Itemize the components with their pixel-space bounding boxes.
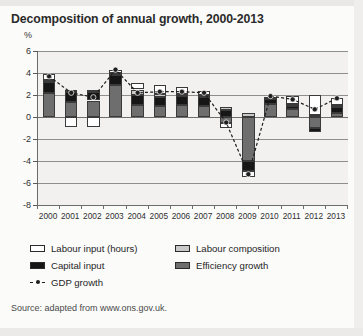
- x-tick-label-2007: 2007: [191, 211, 215, 221]
- y-tick-label-6: 6: [9, 47, 31, 56]
- gdp-marker-2007: [201, 90, 206, 95]
- legend-item-efficiency-growth: Efficiency growth: [175, 260, 268, 271]
- figure-container: Decomposition of annual growth, 2000-201…: [0, 0, 363, 336]
- legend-item-gdp-growth: GDP growth: [30, 277, 103, 288]
- chart-legend: Labour input (hours) Labour composition …: [30, 243, 340, 294]
- x-tick-label-2005: 2005: [147, 211, 171, 221]
- y-tick-label--2: -2: [9, 135, 31, 144]
- legend-swatch-labour-composition: [175, 245, 190, 252]
- gdp-marker-2008: [224, 120, 229, 125]
- gdp-marker-2012: [312, 107, 317, 112]
- y-tick-label-2: 2: [9, 91, 31, 100]
- gdp-marker-2013: [334, 96, 339, 101]
- x-tick-2008: [214, 205, 215, 209]
- gdp-marker-2004: [135, 90, 140, 95]
- x-tick-2004: [126, 205, 127, 209]
- x-tick-2012: [303, 205, 304, 209]
- x-tick-2011: [281, 205, 282, 209]
- legend-label-efficiency-growth: Efficiency growth: [196, 260, 268, 271]
- gdp-marker-2005: [157, 89, 162, 94]
- x-tick-label-2009: 2009: [235, 211, 259, 221]
- y-tick-label--8: -8: [9, 201, 31, 210]
- gdp-growth-line: [38, 51, 348, 205]
- gdp-marker-2006: [179, 89, 184, 94]
- gdp-marker-2003: [113, 67, 118, 72]
- gdp-marker-2000: [46, 74, 51, 79]
- legend-item-labour-input-hours: Labour input (hours): [30, 243, 137, 254]
- legend-label-labour-input-hours: Labour input (hours): [51, 243, 137, 254]
- x-tick-2010: [258, 205, 259, 209]
- x-tick-label-2006: 2006: [169, 211, 193, 221]
- legend-row-1: Labour input (hours) Labour composition: [30, 243, 340, 260]
- x-tick-label-2000: 2000: [36, 211, 60, 221]
- source-note: Source: adapted from www.ons.gov.uk.: [11, 303, 167, 313]
- legend-swatch-labour-input-hours: [30, 245, 45, 252]
- y-tick-label-4: 4: [9, 69, 31, 78]
- x-tick-2000: [37, 205, 38, 209]
- chart-title: Decomposition of annual growth, 2000-201…: [11, 12, 264, 26]
- x-tick-2001: [59, 205, 60, 209]
- gdp-marker-2011: [290, 97, 295, 102]
- x-tick-label-2011: 2011: [280, 211, 304, 221]
- x-tick-label-2013: 2013: [324, 211, 348, 221]
- y-tick-label--6: -6: [9, 179, 31, 188]
- legend-item-labour-composition: Labour composition: [175, 243, 280, 254]
- x-tick-label-2008: 2008: [213, 211, 237, 221]
- x-tick-2007: [192, 205, 193, 209]
- x-tick-end: [347, 205, 348, 209]
- gdp-marker-2002: [91, 95, 96, 100]
- y-tick-label--4: -4: [9, 157, 31, 166]
- x-tick-label-2012: 2012: [302, 211, 326, 221]
- legend-item-capital-input: Capital input: [30, 260, 104, 271]
- x-tick-label-2002: 2002: [80, 211, 104, 221]
- x-tick-label-2004: 2004: [125, 211, 149, 221]
- x-tick-2005: [148, 205, 149, 209]
- legend-label-gdp-growth: GDP growth: [51, 277, 103, 288]
- plot-canvas: [37, 51, 348, 205]
- legend-label-labour-composition: Labour composition: [196, 243, 280, 254]
- y-axis-unit-label: %: [24, 30, 32, 40]
- legend-row-3: GDP growth: [30, 277, 340, 294]
- x-tick-2013: [325, 205, 326, 209]
- legend-row-2: Capital input Efficiency growth: [30, 260, 340, 277]
- x-tick-2009: [236, 205, 237, 209]
- legend-swatch-gdp-growth: [30, 279, 45, 286]
- x-tick-2006: [170, 205, 171, 209]
- legend-label-capital-input: Capital input: [51, 260, 104, 271]
- page-edge-top: [0, 0, 363, 6]
- x-tick-label-2003: 2003: [103, 211, 127, 221]
- page-edge-bottom: [0, 328, 363, 336]
- gdp-marker-2009: [246, 172, 251, 177]
- gdp-marker-2010: [268, 94, 273, 99]
- plot-area: 6420-2-4-6-8 200020012002200320042005200…: [0, 44, 363, 212]
- x-tick-label-2010: 2010: [258, 211, 282, 221]
- legend-swatch-capital-input: [30, 262, 45, 269]
- x-tick-label-2001: 2001: [58, 211, 82, 221]
- gdp-growth-polyline: [49, 70, 337, 175]
- x-tick-2002: [81, 205, 82, 209]
- y-tick-label-0: 0: [9, 113, 31, 122]
- gdp-marker-2001: [69, 90, 74, 95]
- legend-swatch-efficiency-growth: [175, 262, 190, 269]
- x-tick-2003: [103, 205, 104, 209]
